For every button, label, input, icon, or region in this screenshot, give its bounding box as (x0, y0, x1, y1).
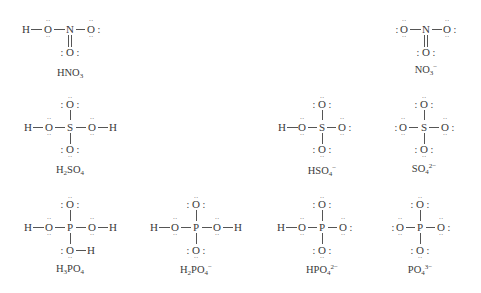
atom-h: H (278, 122, 286, 133)
formula-label: H3PO4 (56, 263, 84, 276)
bond (432, 29, 442, 30)
lone-pair: ·· (439, 232, 444, 239)
lone-pair: ·· (341, 216, 346, 223)
lone-pair: ·· (46, 18, 51, 25)
lone-pair: : (61, 144, 64, 155)
lone-pair: : (77, 47, 80, 58)
formula-label: NO3− (415, 63, 438, 77)
bond (308, 227, 317, 228)
lone-pair: : (411, 245, 414, 256)
lone-pair: ·· (398, 216, 403, 223)
lone-pair: ·· (47, 232, 52, 239)
lone-pair: : (396, 24, 399, 35)
lone-pair: : (329, 144, 332, 155)
lone-pair: ·· (215, 216, 220, 223)
lone-pair: : (454, 24, 457, 35)
bond (322, 110, 323, 120)
lone-pair: ·· (341, 232, 346, 239)
atom-h: H (24, 122, 32, 133)
lone-pair: ·· (402, 34, 407, 41)
lone-pair: ·· (90, 132, 95, 139)
lone-pair: ·· (401, 116, 406, 123)
atom-h: H (24, 222, 32, 233)
lone-pair: ·· (445, 18, 450, 25)
bond (55, 227, 65, 228)
lone-pair: : (313, 144, 316, 155)
bond (181, 227, 191, 228)
lone-pair: ·· (90, 116, 95, 123)
lone-pair: ·· (300, 116, 305, 123)
lone-pair: ·· (47, 132, 52, 139)
atom-o: O (66, 47, 74, 58)
lone-pair: ·· (300, 232, 305, 239)
lone-pair: ·· (422, 154, 427, 161)
lone-pair: : (187, 245, 190, 256)
lone-pair: ·· (443, 116, 448, 123)
atom-p: P (319, 222, 325, 233)
atom-h: H (109, 122, 117, 133)
bond (426, 227, 435, 228)
atom-p: P (193, 222, 199, 233)
atom-s: S (67, 122, 73, 133)
lone-pair: ·· (47, 116, 52, 123)
lone-pair: : (395, 122, 398, 133)
bond (70, 210, 71, 221)
bond (55, 127, 65, 128)
lone-pair: : (77, 144, 80, 155)
lone-pair: : (61, 47, 64, 58)
atom-h: H (277, 222, 285, 233)
lone-pair: ·· (68, 255, 73, 262)
formula-label: H2PO4− (180, 263, 212, 277)
bond (410, 29, 421, 30)
lone-pair: : (452, 122, 455, 133)
bond (33, 227, 44, 228)
lone-pair: ·· (46, 34, 51, 41)
lone-pair: : (350, 222, 353, 233)
lone-pair: : (77, 99, 80, 110)
atom-p: P (67, 222, 73, 233)
bond (429, 127, 439, 128)
bond (420, 233, 421, 244)
lone-pair: ·· (340, 132, 345, 139)
bond (76, 227, 86, 228)
atom-o: O (416, 199, 424, 210)
lone-pair: ·· (90, 232, 95, 239)
lone-pair: : (427, 199, 430, 210)
lone-pair: : (349, 122, 352, 133)
lone-pair: : (427, 245, 430, 256)
lone-pair: : (329, 199, 332, 210)
lone-pair: ·· (194, 255, 199, 262)
atom-o: O (318, 199, 326, 210)
atom-p: P (417, 222, 423, 233)
lone-pair: ·· (90, 216, 95, 223)
formula-label: PO43− (408, 263, 432, 277)
atom-h: H (150, 222, 158, 233)
bond (54, 29, 65, 30)
lone-pair: : (313, 199, 316, 210)
atom-o: O (66, 199, 74, 210)
bond (328, 227, 337, 228)
atom-h: H (109, 222, 117, 233)
lone-pair: ·· (340, 116, 345, 123)
bond (76, 127, 86, 128)
bond (196, 210, 197, 221)
atom-s: S (319, 122, 325, 133)
formula-label: H2SO4 (56, 164, 84, 177)
lone-pair: ·· (443, 132, 448, 139)
lone-pair: : (98, 24, 101, 35)
atom-h: H (22, 24, 30, 35)
atom-o: O (422, 47, 430, 58)
lone-pair: ·· (320, 255, 325, 262)
lone-pair: : (448, 222, 451, 233)
lone-pair: ·· (445, 34, 450, 41)
lone-pair: ·· (68, 154, 73, 161)
bond (76, 250, 86, 251)
lone-pair: ·· (173, 232, 178, 239)
lone-pair: : (411, 199, 414, 210)
lone-pair: : (313, 245, 316, 256)
atom-o: O (318, 99, 326, 110)
bond (76, 29, 85, 30)
bond (70, 110, 71, 120)
lone-pair: : (431, 144, 434, 155)
lone-pair: : (431, 99, 434, 110)
